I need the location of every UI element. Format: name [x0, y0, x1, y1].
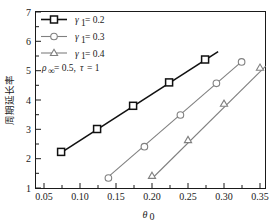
legend-marker-circle-icon [51, 33, 58, 40]
legend-marker-square-icon [51, 16, 58, 23]
y-axis-title: 周期延长率 [4, 75, 15, 125]
y-tick-label: 2 [26, 153, 31, 164]
annotation-tau-value: = 1 [87, 63, 100, 73]
x-tick-label: 0.20 [143, 191, 161, 202]
x-tick-label: 0.25 [179, 191, 197, 202]
data-point-marker [130, 102, 137, 109]
y-tick-label: 3 [26, 124, 31, 135]
data-point-marker [213, 80, 220, 87]
data-point-marker [166, 79, 173, 86]
legend-label-gamma: γ [75, 32, 79, 42]
x-tick-label: 0.10 [71, 191, 89, 202]
legend-label-gamma: γ [75, 49, 79, 59]
x-tick-label: 0.35 [251, 191, 269, 202]
chart-page: 0.05 0.10 0.15 0.20 0.25 0.30 0.35 1 2 3… [0, 0, 276, 224]
legend-label-gamma: γ [75, 15, 79, 25]
annotation-tau-symbol: τ [80, 63, 84, 73]
legend-label-value: = 0.2 [85, 15, 105, 25]
data-point-marker [202, 56, 209, 63]
x-tick-label: 0.30 [215, 191, 233, 202]
data-point-marker [141, 143, 148, 150]
data-point-marker [105, 175, 112, 182]
x-axis-title-symbol: θ [143, 209, 148, 220]
legend-label-value: = 0.4 [85, 49, 105, 59]
y-tick-label: 7 [26, 7, 31, 18]
x-tick-label: 0.15 [107, 191, 125, 202]
x-axis-title-sub: 0 [150, 211, 155, 222]
data-point-marker [177, 112, 184, 119]
y-tick-label: 1 [26, 183, 31, 194]
data-point-marker [58, 148, 65, 155]
annotation-rho-symbol: ρ [41, 63, 47, 73]
y-tick-label: 6 [26, 36, 31, 47]
y-tick-label: 4 [26, 95, 31, 106]
data-point-marker [94, 126, 101, 133]
legend-label-value: = 0.3 [85, 32, 105, 42]
data-point-marker [238, 59, 245, 66]
annotation-rho-value: = 0.5, [54, 63, 76, 73]
x-tick-label: 0.05 [35, 191, 53, 202]
y-tick-label: 5 [26, 65, 31, 76]
line-chart: 0.05 0.10 0.15 0.20 0.25 0.30 0.35 1 2 3… [0, 0, 276, 224]
